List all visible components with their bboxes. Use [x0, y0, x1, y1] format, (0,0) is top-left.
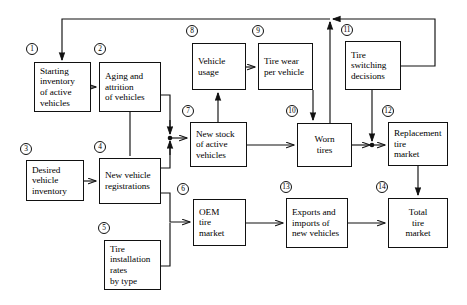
flow-diagram: Starting inventory of active vehicles Ag… [0, 0, 467, 305]
step-number-4: 4 [94, 141, 106, 153]
node-tire-wear-per-vehicle[interactable]: Tire wear per vehicle [258, 43, 313, 90]
step-number-8: 8 [186, 25, 198, 37]
node-starting-inventory-of-active-vehicles[interactable]: Starting inventory of active vehicles [34, 62, 91, 112]
junction-dot-left-of-7 [168, 136, 173, 141]
node-tire-installation-rates-by-type[interactable]: Tire installation rates by type [104, 240, 161, 290]
step-number-1: 1 [26, 43, 38, 55]
node-exports-and-imports-of-new-vehicles[interactable]: Exports and imports of new vehicles [286, 198, 348, 248]
step-number-11: 11 [341, 24, 353, 36]
step-number-6: 6 [177, 183, 189, 195]
step-number-13: 13 [280, 181, 292, 193]
node-replacement-tire-market[interactable]: Replacement tire market [388, 122, 448, 166]
node-aging-and-attrition-of-vehicles[interactable]: Aging and attrition of vehicles [99, 62, 161, 112]
junction-dot-left-of-12 [370, 143, 375, 148]
step-number-5: 5 [98, 222, 110, 234]
step-number-12: 12 [382, 105, 394, 117]
node-oem-tire-market[interactable]: OEM tire market [193, 199, 246, 246]
step-number-2: 2 [94, 43, 106, 55]
step-number-7: 7 [182, 105, 194, 117]
step-number-10: 10 [286, 105, 298, 117]
wire-4-to-junction [161, 145, 170, 168]
node-total-tire-market[interactable]: Total tire market [388, 198, 448, 248]
step-number-9: 9 [252, 25, 264, 37]
step-number-14: 14 [376, 181, 388, 193]
wire-4-to-6 [161, 193, 190, 222]
node-tire-switching-decisions[interactable]: Tire switching decisions [345, 41, 401, 90]
node-worn-tires[interactable]: Worn tires [297, 123, 352, 167]
node-vehicle-usage[interactable]: Vehicle usage [192, 43, 246, 90]
wire-2-to-junction [161, 95, 170, 131]
wire-5-to-6 [161, 223, 170, 266]
node-new-vehicle-registrations[interactable]: New vehicle registrations [99, 158, 161, 204]
node-desired-vehicle-inventory[interactable]: Desired vehicle inventory [26, 160, 84, 201]
node-new-stock-of-active-vehicles[interactable]: New stock of active vehicles [190, 122, 247, 167]
step-number-3: 3 [20, 143, 32, 155]
